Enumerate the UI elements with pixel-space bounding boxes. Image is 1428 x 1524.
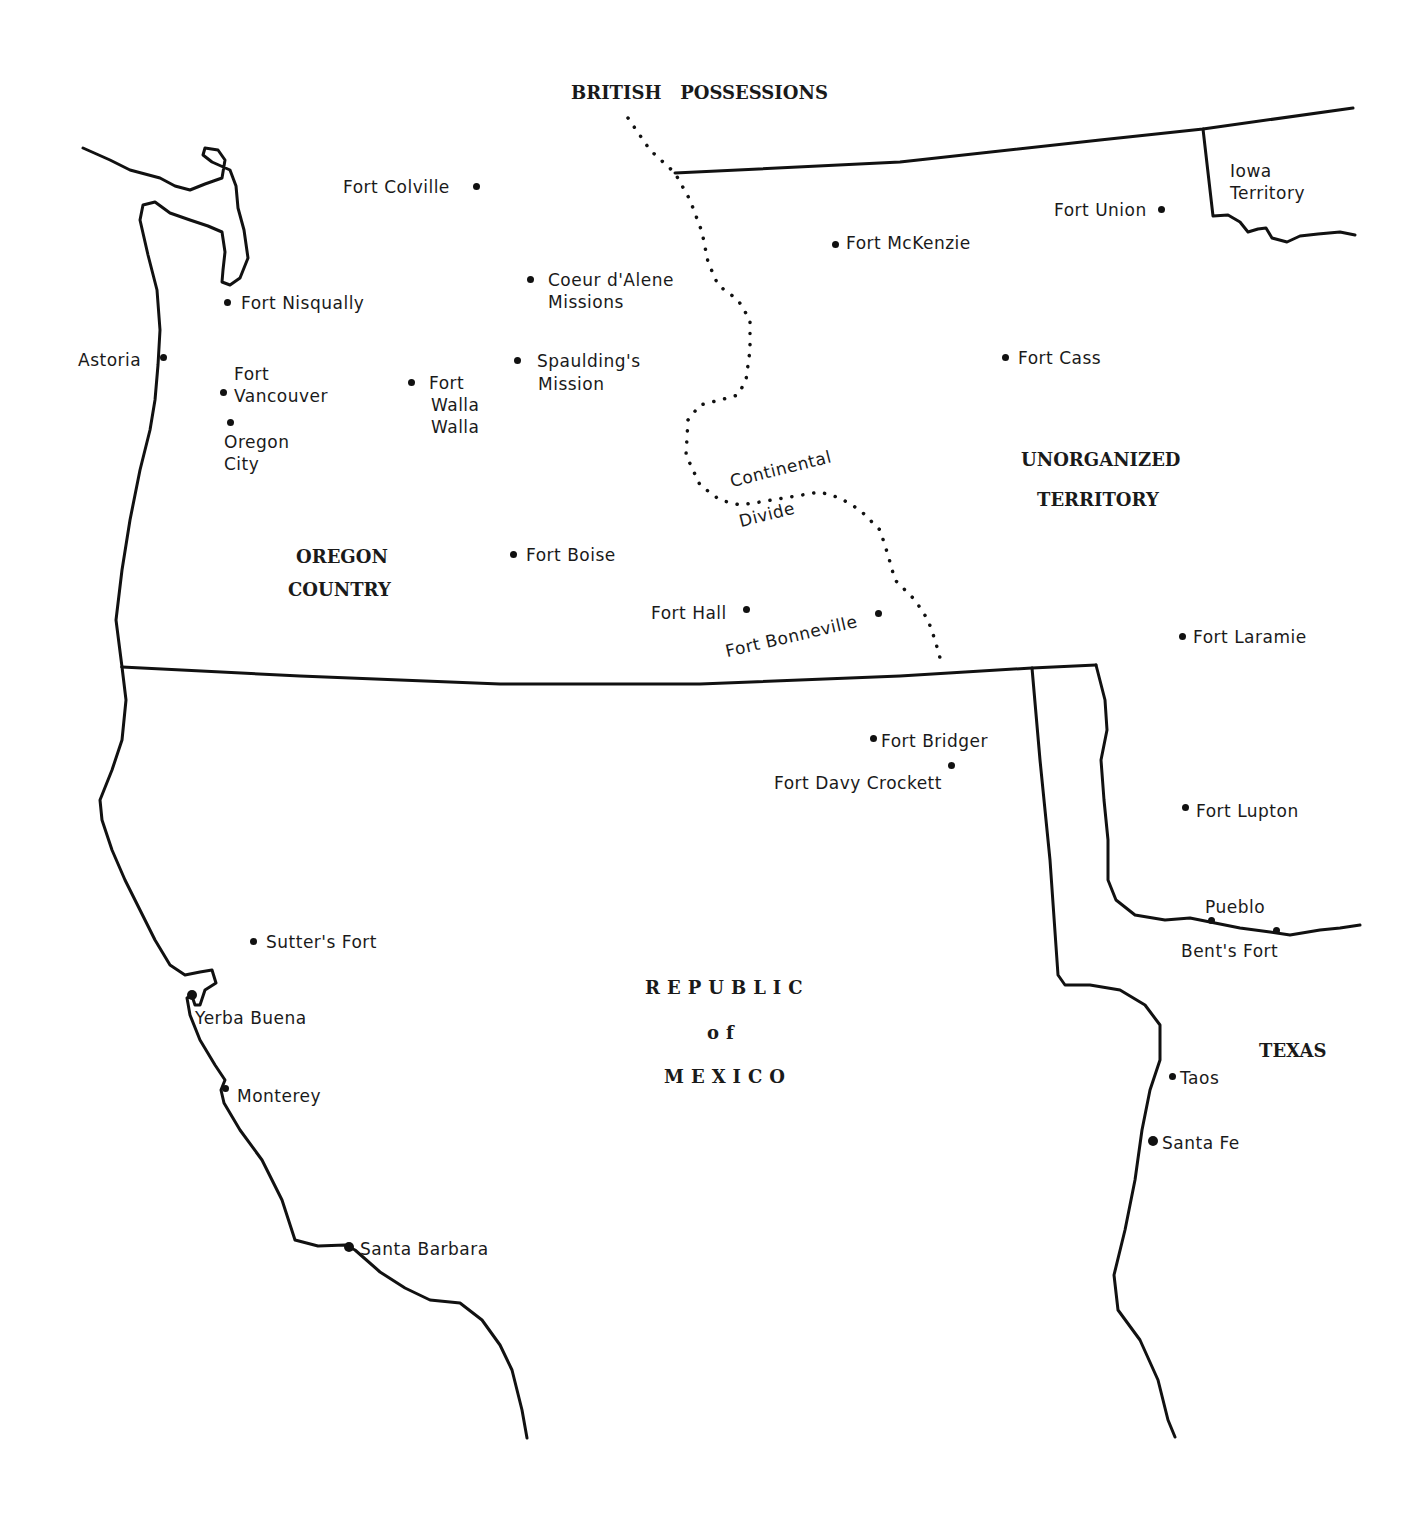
oregon-mexico-border — [122, 665, 1096, 684]
place-marker-icon — [187, 990, 197, 1000]
region-unorganized-territory-line2: TERRITORY — [1037, 489, 1159, 510]
place-marker-icon — [473, 183, 480, 190]
place-astoria: Astoria — [78, 349, 141, 371]
place-fort-union: Fort Union — [1054, 199, 1147, 221]
place-marker-icon — [514, 357, 521, 364]
place-fort-colville: Fort Colville — [343, 176, 450, 198]
place-fort-davy-crockett: Fort Davy Crockett — [774, 772, 942, 794]
place-marker-icon — [1273, 927, 1280, 934]
place-fort-walla-walla-line1: Fort — [429, 372, 464, 394]
place-fort-laramie: Fort Laramie — [1193, 626, 1307, 648]
place-taos: Taos — [1180, 1067, 1219, 1089]
place-yerba-buena: Yerba Buena — [195, 1007, 307, 1029]
place-marker-icon — [222, 1085, 229, 1092]
place-marker-icon — [870, 735, 877, 742]
region-oregon-country-line2: COUNTRY — [288, 579, 391, 600]
map-lines — [0, 0, 1428, 1524]
region-mexico-line2: of — [707, 1022, 741, 1043]
place-santa-fe: Santa Fe — [1162, 1132, 1240, 1154]
place-marker-icon — [1182, 804, 1189, 811]
place-marker-icon — [1158, 206, 1165, 213]
place-fort-mckenzie: Fort McKenzie — [846, 232, 971, 254]
place-oregon-city-line1: Oregon — [224, 431, 289, 453]
place-marker-icon — [344, 1242, 354, 1252]
place-fort-lupton: Fort Lupton — [1196, 800, 1299, 822]
place-fort-hall: Fort Hall — [651, 602, 727, 624]
place-oregon-city-line2: City — [224, 453, 259, 475]
place-pueblo: Pueblo — [1205, 896, 1265, 918]
region-mexico-line1: REPUBLIC — [645, 977, 810, 998]
place-marker-icon — [1179, 633, 1186, 640]
place-marker-icon — [160, 354, 167, 361]
place-monterey: Monterey — [237, 1085, 321, 1107]
region-unorganized-territory-line1: UNORGANIZED — [1021, 449, 1180, 470]
place-marker-icon — [250, 938, 257, 945]
place-marker-icon — [948, 762, 955, 769]
place-marker-icon — [408, 379, 415, 386]
place-fort-walla-walla-line2: Walla — [431, 394, 480, 416]
place-fort-bridger: Fort Bridger — [881, 730, 988, 752]
place-fort-nisqually: Fort Nisqually — [241, 292, 364, 314]
place-fort-vancouver-line1: Fort — [234, 363, 269, 385]
region-iowa-territory-line1: Iowa — [1230, 160, 1272, 182]
region-iowa-territory-line2: Territory — [1230, 182, 1305, 204]
region-oregon-country-line1: OREGON — [296, 546, 388, 567]
place-marker-icon — [224, 299, 231, 306]
place-marker-icon — [743, 606, 750, 613]
place-spauldings-mission-line2: Mission — [538, 373, 605, 395]
region-mexico-line3: MEXICO — [664, 1066, 792, 1087]
place-fort-walla-walla-line3: Walla — [431, 416, 480, 438]
place-santa-barbara: Santa Barbara — [360, 1238, 489, 1260]
place-bents-fort: Bent's Fort — [1181, 940, 1278, 962]
place-marker-icon — [1148, 1136, 1158, 1146]
place-marker-icon — [527, 276, 534, 283]
place-marker-icon — [832, 241, 839, 248]
strait-coastline — [83, 148, 248, 667]
place-fort-boise: Fort Boise — [526, 544, 616, 566]
place-marker-icon — [1208, 917, 1215, 924]
place-coeur-dalene-line2: Missions — [548, 291, 624, 313]
place-marker-icon — [227, 419, 234, 426]
place-spauldings-mission-line1: Spaulding's — [537, 350, 641, 372]
place-marker-icon — [510, 551, 517, 558]
place-sutters-fort: Sutter's Fort — [266, 931, 377, 953]
place-marker-icon — [220, 389, 227, 396]
place-marker-icon — [875, 610, 882, 617]
historical-map: BRITISH POSSESSIONS OREGON COUNTRY UNORG… — [0, 0, 1428, 1524]
place-marker-icon — [1169, 1073, 1176, 1080]
place-coeur-dalene-line1: Coeur d'Alene — [548, 269, 674, 291]
continental-divide-line — [628, 118, 942, 665]
place-fort-cass: Fort Cass — [1018, 347, 1101, 369]
place-fort-vancouver-line2: Vancouver — [234, 385, 328, 407]
california-coastline — [100, 667, 527, 1438]
place-marker-icon — [1002, 354, 1009, 361]
region-british-possessions: BRITISH POSSESSIONS — [571, 82, 828, 103]
region-texas: TEXAS — [1259, 1040, 1326, 1061]
